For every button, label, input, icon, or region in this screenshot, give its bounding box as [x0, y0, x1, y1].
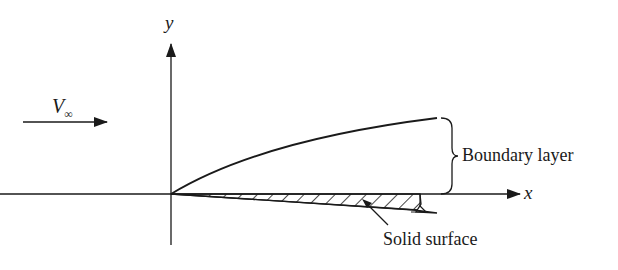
x-axis-label: x: [524, 182, 532, 204]
freestream-subscript: ∞: [64, 107, 73, 121]
y-axis-label: y: [165, 12, 173, 34]
boundary-layer-edge: [171, 118, 437, 194]
freestream-symbol: V: [52, 95, 64, 117]
boundary-layer-brace: [441, 118, 458, 194]
freestream-label: V∞: [52, 95, 73, 122]
boundary-layer-label: Boundary layer: [462, 145, 573, 166]
solid-surface-label: Solid surface: [383, 229, 477, 250]
boundary-layer-diagram: [0, 0, 618, 270]
